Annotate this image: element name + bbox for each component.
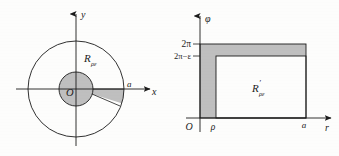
left-x-axis-label: x [151,86,157,97]
right-origin-label: O [185,121,192,132]
right-phi-axis-label: φ [205,13,211,24]
top-shaded-strip [200,44,306,56]
inner-region-rect [216,56,306,118]
tick-label-two-pi-minus-eps: 2π−ε [174,51,191,61]
polar-rectangle-panel: 2π 2π−ε ρ a O r φ R ′ ρε [174,13,331,133]
cartesian-disk-panel: O a x y R ρε [16,9,157,146]
left-origin-label: O [66,87,74,98]
left-region-label: R ρε [83,52,97,67]
left-region-label-main: R [83,52,91,64]
right-region-label-main: R [251,82,259,94]
tick-label-rho: ρ [210,122,216,132]
right-r-axis-label: r [325,122,329,133]
right-region-label-subscript: ρε [258,90,265,97]
right-region-label-prime: ′ [259,79,261,88]
left-radius-label-a: a [127,79,132,89]
tick-label-a: a [302,120,307,130]
left-y-axis-label: y [80,9,86,20]
right-region-label: R ′ ρε [251,79,265,97]
left-region-label-subscript: ρε [90,60,97,67]
tick-label-two-pi: 2π [181,39,191,49]
figure-canvas: O a x y R ρε [0,0,339,156]
figure-root: O a x y R ρε [0,0,339,156]
